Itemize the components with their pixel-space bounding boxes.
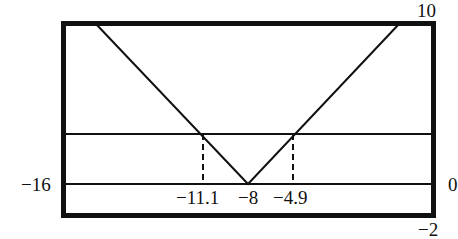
x-vertex-label: −8 <box>238 188 258 207</box>
x-right-intersection-label: −4.9 <box>273 188 307 207</box>
ymin-label: −2 <box>418 220 438 239</box>
ymax-label: 10 <box>417 1 436 20</box>
xmin-label: −16 <box>21 175 51 194</box>
x-left-intersection-label: −11.1 <box>176 188 219 207</box>
xmax-label: 0 <box>448 175 458 194</box>
absolute-value-graph <box>96 24 399 184</box>
